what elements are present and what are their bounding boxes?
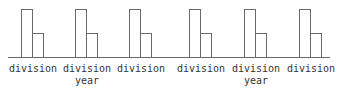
category-label-1: division	[3, 63, 63, 75]
bar-short-4	[200, 33, 212, 57]
bar-short-6	[310, 33, 322, 57]
bar-short-1	[32, 33, 44, 57]
category-label-4: division	[171, 63, 231, 75]
bar-chart: division division year division division…	[0, 0, 339, 90]
x-axis-baseline	[8, 57, 330, 58]
category-label-2: division year	[57, 63, 117, 87]
bar-short-5	[255, 33, 267, 57]
category-label-5: division year	[226, 63, 286, 87]
bar-short-3	[140, 33, 152, 57]
bar-short-2	[86, 33, 98, 57]
category-label-6: division	[281, 63, 339, 75]
category-label-3: division	[111, 63, 171, 75]
